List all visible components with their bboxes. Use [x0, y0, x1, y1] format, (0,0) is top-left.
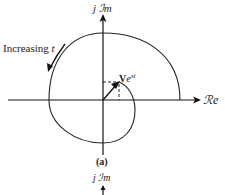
real-axis-label: ℛe: [203, 93, 218, 108]
increasing-t-label: Increasing t: [3, 42, 55, 54]
imag-axis-label: j ℐm: [93, 2, 112, 15]
time-variable: t: [52, 42, 55, 54]
spiral-trajectory: [49, 33, 180, 143]
next-panel-arrowhead-icon: [101, 185, 106, 190]
increasing-text: Increasing: [3, 42, 52, 54]
vector-label: Vest: [119, 72, 135, 84]
phasor-diagram: [0, 0, 225, 195]
next-panel-imag-label: j ℐm: [93, 172, 111, 183]
exponent: st: [131, 72, 136, 80]
figure-caption: (a): [96, 156, 108, 167]
